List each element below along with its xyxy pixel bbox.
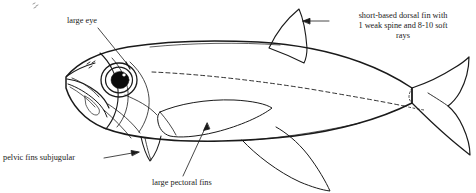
snout-upper: [67, 63, 95, 76]
cheek-line: [125, 95, 157, 115]
pupil-highlight: [122, 74, 125, 77]
pupil: [111, 71, 129, 88]
leader-pelvic-fins: [104, 150, 139, 158]
caudal-fin: [412, 57, 470, 155]
fish-anatomy-figure: large eye short-based dorsal fin with 1 …: [0, 0, 476, 193]
leader-pectoral-fins: [183, 123, 210, 176]
back-ridge: [150, 43, 280, 47]
lateral-line-caudal: [404, 106, 424, 110]
caudal-fin-notch: [428, 93, 448, 106]
scan-artifact: [33, 3, 38, 8]
annotation-pectoral-fins: large pectoral fins: [152, 178, 212, 188]
lateral-line: [152, 72, 404, 106]
pectoral-fin: [158, 100, 272, 137]
annotation-large-eye: large eye: [67, 16, 97, 26]
leader-dorsal-fin: [303, 18, 329, 23]
annotation-dorsal-fin: short-based dorsal fin with 1 weak spine…: [333, 11, 473, 42]
belly-ridge: [250, 123, 360, 140]
annotation-pelvic-fins: pelvic fins subjugular: [3, 153, 75, 163]
dorsal-fin: [269, 9, 307, 63]
operculum: [100, 53, 118, 129]
preopercle: [130, 62, 149, 132]
